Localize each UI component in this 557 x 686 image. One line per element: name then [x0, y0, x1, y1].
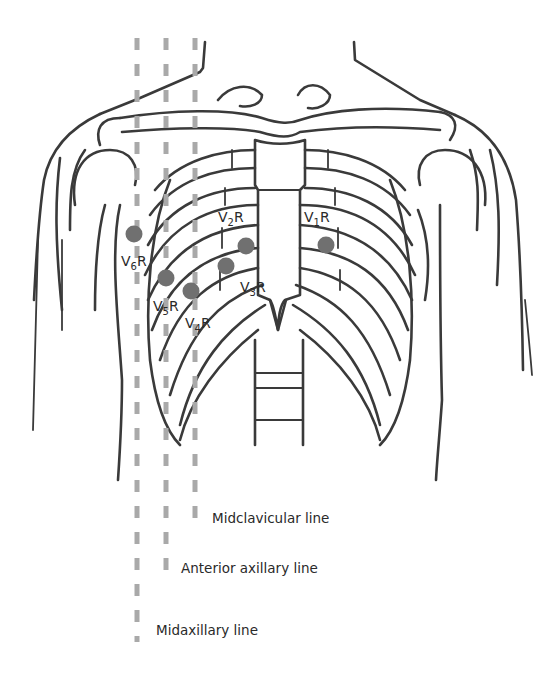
anterior-axillary-line-label: Anterior axillary line — [181, 560, 318, 576]
ribs-left — [145, 150, 265, 445]
electrode-v4r — [183, 283, 200, 300]
chest-lead-diagram: V1R V2R V3R V4R V5R V6R Midclavicular li… — [0, 0, 557, 686]
spine — [255, 340, 303, 445]
label-v3r: V3R — [240, 279, 266, 298]
label-v4r: V4R — [185, 315, 211, 334]
torso-outline — [33, 42, 532, 480]
electrode-v3r — [218, 258, 235, 275]
midclavicular-line-label: Midclavicular line — [212, 510, 329, 526]
label-v2r: V2R — [218, 209, 244, 228]
electrode-v6r — [126, 226, 143, 243]
electrode-v2r — [238, 238, 255, 255]
electrode-v5r — [158, 270, 175, 287]
electrode-v1r — [318, 237, 335, 254]
ribs-right — [293, 150, 415, 445]
midaxillary-line-label: Midaxillary line — [156, 622, 258, 638]
label-v6r: V6R — [121, 253, 147, 272]
guide-line-labels: Midclavicular line Anterior axillary lin… — [156, 510, 329, 638]
sternum — [255, 140, 305, 330]
